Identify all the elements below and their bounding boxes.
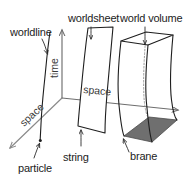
worldsheet-object <box>78 27 113 133</box>
label-particle: particle <box>18 162 52 174</box>
label-string: string <box>63 151 89 163</box>
world-volume-edge-right <box>170 35 177 120</box>
label-time-axis: time <box>48 58 60 78</box>
worldline-object <box>39 32 50 142</box>
particle-point <box>39 139 42 142</box>
spacetime-diagram: worldline worldsheet world volume partic… <box>0 0 188 182</box>
label-worldsheet: worldsheet <box>67 12 119 24</box>
world-volume-top-face <box>121 32 173 45</box>
particle-leader <box>34 144 40 159</box>
worldline-curve <box>40 32 50 140</box>
brane-leader <box>124 139 130 152</box>
label-worldline: worldline <box>9 26 52 38</box>
worldline-leader <box>42 39 48 54</box>
worldsheet-surface <box>78 27 113 133</box>
world-volume-edge-left <box>118 41 124 136</box>
world-volume-object <box>118 32 177 142</box>
label-space-axis-top: space <box>83 83 112 97</box>
label-brane: brane <box>130 150 157 162</box>
label-world-volume: world volume <box>119 12 182 24</box>
